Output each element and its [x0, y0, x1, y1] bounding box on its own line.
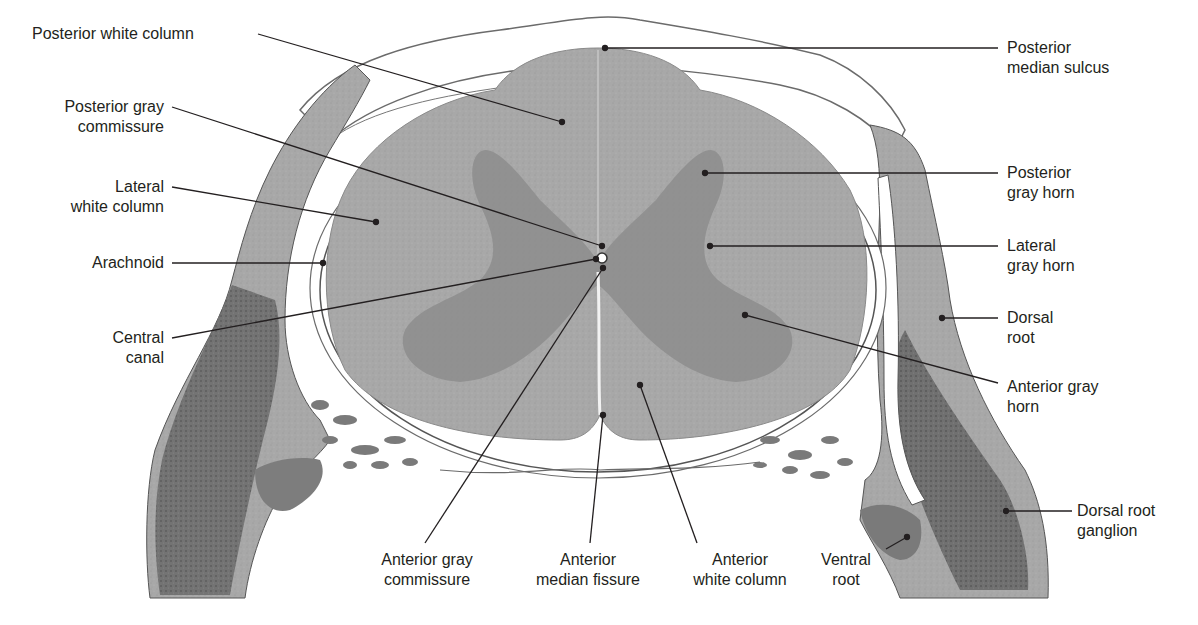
label-line: root: [1007, 328, 1053, 348]
label-line: ganglion: [1077, 521, 1155, 541]
label-anterior-median-fissure: Anterior median fissure: [503, 550, 673, 590]
label-line: commissure: [352, 570, 502, 590]
label-anterior-gray-commissure: Anterior gray commissure: [352, 550, 502, 590]
label-line: white column: [71, 197, 164, 217]
label-anterior-white-column: Anterior white column: [670, 550, 810, 590]
label-lateral-white-column: Lateral white column: [71, 177, 164, 217]
label-line: Anterior: [670, 550, 810, 570]
label-line: Ventral: [811, 550, 881, 570]
label-posterior-gray-horn: Posterior gray horn: [1007, 163, 1075, 203]
label-line: Anterior: [503, 550, 673, 570]
label-ventral-root: Ventral root: [811, 550, 881, 590]
anterior-median-fissure-shape: [598, 272, 600, 415]
label-line: white column: [670, 570, 810, 590]
label-line: Lateral: [1007, 236, 1075, 256]
label-line: Lateral: [71, 177, 164, 197]
label-line: Anterior gray: [1007, 377, 1099, 397]
label-lateral-gray-horn: Lateral gray horn: [1007, 236, 1075, 276]
label-line: Posterior: [1007, 163, 1075, 183]
spinal-cord-diagram: Posterior white column Posterior gray co…: [0, 0, 1198, 625]
label-anterior-gray-horn: Anterior gray horn: [1007, 377, 1099, 417]
label-line: Posterior gray: [64, 97, 164, 117]
label-line: canal: [112, 348, 164, 368]
label-line: Anterior gray: [352, 550, 502, 570]
label-central-canal: Central canal: [112, 328, 164, 368]
label-dorsal-root: Dorsal root: [1007, 308, 1053, 348]
label-line: gray horn: [1007, 183, 1075, 203]
label-arachnoid: Arachnoid: [92, 253, 164, 273]
label-line: commissure: [64, 117, 164, 137]
label-dorsal-root-ganglion: Dorsal root ganglion: [1077, 501, 1155, 541]
label-line: Arachnoid: [92, 253, 164, 273]
label-line: gray horn: [1007, 256, 1075, 276]
label-line: median fissure: [503, 570, 673, 590]
label-posterior-white-column: Posterior white column: [32, 24, 194, 44]
label-line: horn: [1007, 397, 1099, 417]
label-line: Posterior: [1007, 38, 1109, 58]
label-line: median sulcus: [1007, 58, 1109, 78]
label-posterior-gray-commissure: Posterior gray commissure: [64, 97, 164, 137]
label-line: Dorsal: [1007, 308, 1053, 328]
label-line: Posterior white column: [32, 24, 194, 44]
label-line: root: [811, 570, 881, 590]
label-line: Dorsal root: [1077, 501, 1155, 521]
label-posterior-median-sulcus: Posterior median sulcus: [1007, 38, 1109, 78]
label-line: Central: [112, 328, 164, 348]
